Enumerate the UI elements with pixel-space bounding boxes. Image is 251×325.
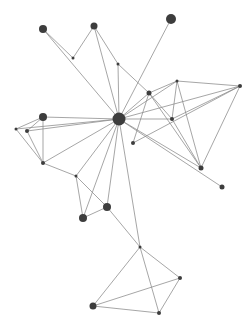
node-n1 <box>39 25 47 33</box>
node-n5 <box>117 63 120 66</box>
edge-hub-n19 <box>83 119 119 218</box>
edge-hub-n20 <box>119 119 140 247</box>
edge-hub-n13 <box>43 117 119 119</box>
network-graph <box>0 0 251 325</box>
edge-n21-n23 <box>93 278 180 306</box>
node-n22 <box>157 311 161 315</box>
node-n12 <box>220 185 225 190</box>
edge-n14-n16 <box>16 129 43 163</box>
edge-n7-n11 <box>177 81 201 168</box>
node-n16 <box>41 161 45 165</box>
edge-n6-n7 <box>149 81 177 93</box>
node-n3 <box>166 14 176 24</box>
node-n23 <box>90 303 97 310</box>
edge-n21-n22 <box>159 278 180 313</box>
node-n10 <box>131 141 135 145</box>
node-n11 <box>199 166 204 171</box>
node-n20 <box>139 246 142 249</box>
edge-hub-n15 <box>27 119 119 131</box>
edge-n22-n23 <box>93 306 159 313</box>
edge-n20-n22 <box>140 247 159 313</box>
edge-n7-n9 <box>172 81 177 119</box>
edge-n18-n20 <box>107 207 140 247</box>
edge-n6-n9 <box>149 93 172 119</box>
node-n19 <box>79 214 87 222</box>
edge-n5-n6 <box>118 64 149 93</box>
node-n17 <box>75 175 78 178</box>
edge-n2-n5 <box>94 26 118 64</box>
edge-n15-n16 <box>27 131 43 163</box>
edge-n1-hub <box>43 29 119 119</box>
node-n9 <box>170 117 174 121</box>
edge-n3-hub <box>119 19 171 119</box>
edge-n1-n4 <box>43 29 73 58</box>
node-n15 <box>25 129 29 133</box>
node-n14 <box>15 128 18 131</box>
edge-n2-n4 <box>73 26 94 58</box>
node-n7 <box>176 80 179 83</box>
node-n18 <box>103 203 111 211</box>
edge-n7-n8 <box>177 81 240 86</box>
edge-n16-n17 <box>43 163 76 176</box>
edge-n20-n23 <box>93 247 140 306</box>
edge-hub-n7 <box>119 81 177 119</box>
edge-hub-n12 <box>119 119 222 187</box>
edge-n20-n21 <box>140 247 180 278</box>
node-n6 <box>147 91 152 96</box>
edge-n2-hub <box>94 26 119 119</box>
graph-edges <box>16 19 240 313</box>
node-n2 <box>91 23 98 30</box>
edge-n9-n11 <box>172 119 201 168</box>
node-n13 <box>39 113 47 121</box>
node-n8 <box>238 84 242 88</box>
node-n21 <box>178 276 182 280</box>
edge-n8-n9 <box>172 86 240 119</box>
edge-n8-n11 <box>201 86 240 168</box>
node-hub <box>113 113 126 126</box>
edge-n5-hub <box>118 64 119 119</box>
graph-nodes <box>15 14 243 315</box>
node-n4 <box>72 57 75 60</box>
